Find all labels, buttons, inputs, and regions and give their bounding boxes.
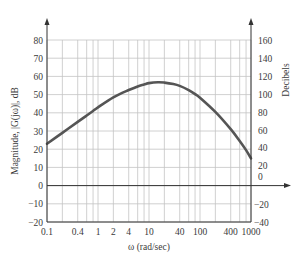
y2-tick-label: 120 — [258, 72, 273, 82]
y-tick-label: 50 — [34, 90, 44, 100]
y-tick-label: −10 — [28, 199, 43, 209]
x-axis-tick-labels: 0.10.412410401004001000 — [41, 227, 261, 237]
y-axis-title: Magnitude, |G(jω)|, dB — [10, 87, 21, 175]
y-tick-label: 30 — [34, 127, 44, 137]
y-tick-label: 40 — [34, 108, 44, 118]
x-tick-label: 2 — [111, 227, 116, 237]
x-tick-label: 10 — [144, 227, 154, 237]
y2-tick-label: 0 — [258, 172, 263, 182]
left-axis-arrow-icon — [45, 18, 50, 25]
y2-tick-label: 160 — [258, 36, 273, 46]
y-tick-label: 0 — [38, 181, 43, 191]
x-tick-label: 40 — [175, 227, 185, 237]
y2-tick-label: 40 — [258, 143, 268, 153]
y2-tick-label: −40 — [254, 218, 269, 228]
x-tick-label: 0.4 — [72, 227, 84, 237]
x-axis-arrow-icon — [284, 183, 291, 188]
y-axis-tick-labels: 80706050403020100−10−20 — [28, 36, 43, 228]
x-tick-label: 400 — [224, 227, 239, 237]
y2-axis-title: Decibels — [281, 63, 291, 97]
bode-magnitude-chart: 0.10.412410401004001000 8070605040302010… — [0, 0, 302, 264]
x-tick-label: 1000 — [242, 227, 261, 237]
x-tick-label: 1 — [96, 227, 101, 237]
y-tick-label: −20 — [28, 218, 43, 228]
x-axis-title: ω (rad/sec) — [128, 242, 170, 253]
y2-tick-label: 100 — [258, 90, 273, 100]
y2-tick-label: 20 — [258, 161, 268, 171]
y2-tick-label: 140 — [258, 54, 273, 64]
x-tick-label: 100 — [193, 227, 208, 237]
x-tick-label: 4 — [126, 227, 131, 237]
y-tick-label: 70 — [34, 54, 44, 64]
y-tick-label: 60 — [34, 72, 44, 82]
x-tick-label: 0.1 — [41, 227, 53, 237]
right-axis-arrow-icon — [249, 18, 254, 25]
y-tick-label: 10 — [34, 163, 44, 173]
y-tick-label: 80 — [34, 36, 44, 46]
y2-tick-label: −20 — [254, 200, 269, 210]
grid-lines — [47, 40, 251, 222]
y-tick-label: 20 — [34, 145, 44, 155]
y2-axis-tick-labels: 160140120100806040200−20−40 — [254, 36, 273, 228]
y2-tick-label: 60 — [258, 126, 268, 136]
y2-tick-label: 80 — [258, 108, 268, 118]
